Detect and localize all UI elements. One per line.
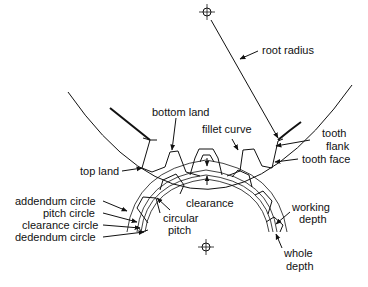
clearance-label: clearance (186, 197, 234, 209)
tooth-flank-label-line1: tooth (322, 127, 346, 139)
upper-gear-teeth (142, 138, 283, 176)
fillet-curve-leader (232, 139, 238, 150)
lower-gear-teeth (137, 149, 283, 232)
upper-gear-root-arc-left (110, 108, 150, 140)
top-land-leader (122, 168, 142, 171)
tooth-flank-leader (276, 140, 310, 146)
pitch-circle-leader (103, 213, 137, 222)
tooth-face-label: tooth face (302, 153, 350, 165)
upper-gear-root-arc-right (278, 122, 301, 140)
working-depth-label-line2: depth (299, 213, 327, 225)
dedendum-circle-label: dedendum circle (15, 231, 96, 243)
circular-pitch-label-line2: pitch (168, 224, 191, 236)
bottom-land-label: bottom land (152, 106, 209, 118)
whole-depth-label-line2: depth (286, 260, 314, 272)
circular-pitch-label-line1: circular (163, 212, 199, 224)
gear-nomenclature-diagram: root radius bottom land fillet curve too… (0, 0, 368, 287)
lower-gear-center-icon (198, 239, 214, 255)
bottom-land-leader (172, 118, 176, 150)
fillet-curve-label: fillet curve (202, 123, 252, 135)
pitch-circle-label: pitch circle (43, 207, 95, 219)
clearance-circle-label: clearance circle (22, 219, 98, 231)
top-land-label: top land (80, 165, 119, 177)
whole-depth-leader (276, 234, 282, 248)
clearance-circle-leader (103, 225, 140, 228)
root-radius-leader (211, 20, 278, 138)
dedendum-circle-leader (103, 232, 144, 237)
tooth-flank-label-line2: flank (326, 140, 350, 152)
root-radius-label-leader (240, 51, 258, 59)
working-depth-label-line1: working (291, 201, 330, 213)
addendum-circle-label: addendum circle (15, 195, 96, 207)
whole-depth-label-line1: whole (283, 247, 313, 259)
upper-gear-center-icon (199, 4, 215, 20)
addendum-circle-leader (103, 201, 127, 211)
root-radius-label: root radius (262, 44, 314, 56)
tooth-face-leader (275, 159, 298, 162)
